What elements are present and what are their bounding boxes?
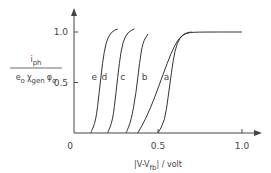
series-label-d: d	[101, 72, 107, 82]
series-label-e: e	[91, 72, 97, 82]
x-axis-label: |V-Vfb| / volt	[134, 160, 182, 172]
y-axis-arrow-icon	[71, 8, 77, 16]
y-axis-label-denominator: eoχgenφo	[16, 73, 57, 85]
chart: 0.51.000.51.0|V-Vfb| / voltipheoχgenφoed…	[0, 0, 271, 173]
x-tick-label: 0	[67, 141, 73, 151]
x-axis-arrow-icon	[254, 130, 262, 136]
series-line-c	[126, 34, 148, 133]
x-tick-label: 1.0	[235, 141, 250, 151]
x-tick-label: 0.5	[151, 141, 165, 151]
series-label-b: b	[142, 72, 148, 82]
series-line-a	[158, 32, 242, 133]
series-label-c: c	[120, 72, 125, 82]
labels-group: 0.51.000.51.0|V-Vfb| / voltipheoχgenφoed…	[10, 27, 249, 172]
y-axis-label-numerator: iph	[30, 55, 41, 67]
series-label-a: a	[164, 72, 170, 82]
y-tick-label: 1.0	[54, 27, 69, 37]
